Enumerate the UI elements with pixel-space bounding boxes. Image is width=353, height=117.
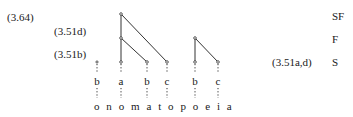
syllable-c-2: c: [213, 75, 223, 87]
syllable-a: a: [116, 75, 126, 87]
syllable-c-1: c: [162, 75, 172, 87]
syllable-b-1: b: [92, 75, 102, 87]
word-onomatopoeia: o n o m a t o p o e i a: [94, 100, 234, 112]
syllable-b-3: b: [190, 75, 200, 87]
syllable-b-2: b: [142, 75, 152, 87]
